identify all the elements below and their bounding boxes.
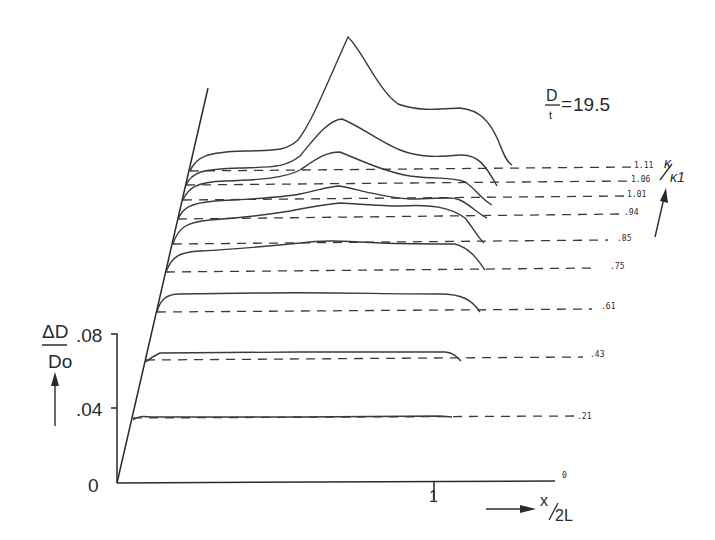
waterfall-chart: 0 .04 .08 1 0 ΔD Do x 2L D t = 19.5 κ κ1	[0, 0, 715, 540]
depth-label-denominator: κ1	[670, 169, 685, 185]
series-label-094: .94	[624, 208, 639, 217]
y-label-denominator: Do	[48, 351, 72, 372]
series-label-043: .43	[590, 350, 605, 359]
y-tick-label-08: .08	[76, 325, 102, 346]
y-tick-label-04: .04	[76, 399, 103, 420]
y-label-numerator: ΔD	[42, 321, 68, 342]
series-label-061: .61	[601, 302, 616, 311]
baseline-075	[166, 268, 597, 272]
baseline-106	[186, 181, 631, 185]
x-axis	[117, 481, 555, 483]
curve-043	[146, 352, 461, 362]
series-baselines	[133, 167, 634, 418]
x-label-denominator: 2L	[555, 507, 573, 524]
series-label-0: 0	[562, 471, 567, 480]
depth-arrow-icon	[655, 198, 664, 237]
baseline-061	[157, 309, 592, 312]
series-curves	[133, 37, 512, 420]
param-value: 19.5	[573, 94, 610, 115]
depth-axis	[117, 88, 208, 483]
x-label-numerator: x	[540, 492, 548, 509]
series-label-111: 1.11	[634, 161, 653, 170]
curve-094	[178, 186, 487, 219]
series-label-085: .85	[617, 234, 632, 243]
curve-075	[166, 241, 485, 272]
y-tick-label-0: 0	[88, 475, 99, 496]
param-denominator: t	[549, 109, 552, 121]
depth-axis-label: κ κ1	[655, 155, 685, 237]
curve-111	[190, 37, 512, 171]
curve-085	[173, 203, 484, 244]
curve-021	[133, 416, 452, 420]
series-label-075: .75	[610, 262, 625, 271]
series-label-021: .21	[577, 412, 592, 421]
curve-061	[157, 293, 480, 312]
y-axis-label: ΔD Do	[42, 321, 72, 426]
series-label-101: 1.01	[627, 190, 646, 199]
parameter-label: D t = 19.5	[545, 87, 610, 121]
param-numerator: D	[546, 87, 558, 104]
x-tick-label-1: 1	[429, 488, 438, 505]
baseline-043	[146, 357, 583, 360]
param-equals: =	[561, 93, 572, 114]
series-label-106: 1.06	[631, 175, 650, 184]
series-labels: .21 .43 .61 .75 .85 .94 1.01 1.06 1.11	[577, 161, 653, 421]
x-axis-label: x 2L	[486, 492, 573, 524]
